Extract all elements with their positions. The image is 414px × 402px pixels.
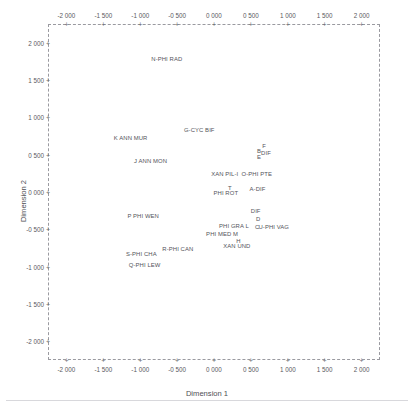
x-tick-label-top-7: 1 500 xyxy=(317,12,333,19)
data-point-label: DIF xyxy=(251,208,261,215)
data-point-label: PHI ROT xyxy=(214,189,239,196)
data-point-label: PHI MED M xyxy=(206,230,238,237)
data-point-label: F xyxy=(262,142,266,149)
x-tick-label-top-6: 1 000 xyxy=(280,12,296,19)
x-tick-label-bottom-8: 2 000 xyxy=(354,366,370,373)
x-tick-label-bottom-0: -2 000 xyxy=(58,366,76,373)
x-tick-label-bottom-6: 1 000 xyxy=(280,366,296,373)
footer-divider xyxy=(6,400,408,401)
data-point-label: S-PHI CHA xyxy=(126,250,157,257)
y-tick-label-4: 0 000 xyxy=(28,189,44,196)
data-point-label: N-PHI RAD xyxy=(151,56,182,63)
data-point-label: DIF xyxy=(261,150,271,157)
y-tick-label-0: 2 000 xyxy=(28,39,44,46)
data-point-label: O-PHI PTE xyxy=(242,171,272,178)
scatter-plot-figure: Dimension 2 ++-2 000-2 000++-1 500-1 500… xyxy=(0,0,414,402)
x-tick-label-bottom-2: -1 000 xyxy=(131,366,149,373)
data-point-label: Q-PHI LEW xyxy=(129,261,161,268)
data-point-label: A-DIF xyxy=(250,186,266,193)
x-tick-label-top-4: 0 000 xyxy=(206,12,222,19)
y-tick-label-1: 1 500 xyxy=(28,77,44,84)
data-point-label: PHI GRA L xyxy=(219,222,249,229)
data-point-label: E xyxy=(257,153,261,160)
x-tick-label-bottom-1: -1 500 xyxy=(94,366,112,373)
y-tick-label-2: 1 000 xyxy=(28,114,44,121)
data-point-label: XAN PIL-I xyxy=(211,171,238,178)
x-tick-label-top-0: -2 000 xyxy=(58,12,76,19)
data-point-label: P PHI WEN xyxy=(127,212,159,219)
x-tick-label-bottom-4: 0 000 xyxy=(206,366,222,373)
y-tick-label-6: -1 000 xyxy=(26,263,44,270)
y-tick-label-8: -2 000 xyxy=(26,338,44,345)
x-tick-label-bottom-7: 1 500 xyxy=(317,366,333,373)
data-point-label: G-CYC BIF xyxy=(184,127,215,134)
data-point-label: U-PHI VAG xyxy=(258,224,289,231)
x-tick-label-bottom-3: -0 500 xyxy=(168,366,186,373)
data-point-label: D xyxy=(256,216,260,223)
x-tick-label-bottom-5: 0 500 xyxy=(243,366,259,373)
data-point-label: XAN UND xyxy=(223,242,250,249)
x-tick-label-top-1: -1 500 xyxy=(94,12,112,19)
y-axis-title: Dimension 2 xyxy=(19,180,28,222)
y-tick-label-5: -0 500 xyxy=(26,226,44,233)
x-tick-label-top-3: -0 500 xyxy=(168,12,186,19)
y-tick-label-7: -1 500 xyxy=(26,301,44,308)
x-axis-title: Dimension 1 xyxy=(0,389,414,398)
x-tick-label-top-8: 2 000 xyxy=(354,12,370,19)
data-point-label: K ANN MUR xyxy=(114,135,148,142)
y-tick-label-3: 0 500 xyxy=(28,151,44,158)
data-point-label: R-PHI CAN xyxy=(162,245,193,252)
x-tick-label-top-5: 0 500 xyxy=(243,12,259,19)
x-tick-label-top-2: -1 000 xyxy=(131,12,149,19)
data-point-label: J ANN MON xyxy=(134,158,167,165)
